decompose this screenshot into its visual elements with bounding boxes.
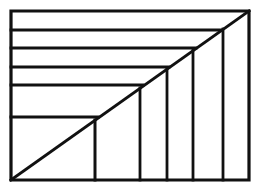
figure-canvas — [0, 0, 254, 187]
geometric-figure — [0, 0, 254, 187]
